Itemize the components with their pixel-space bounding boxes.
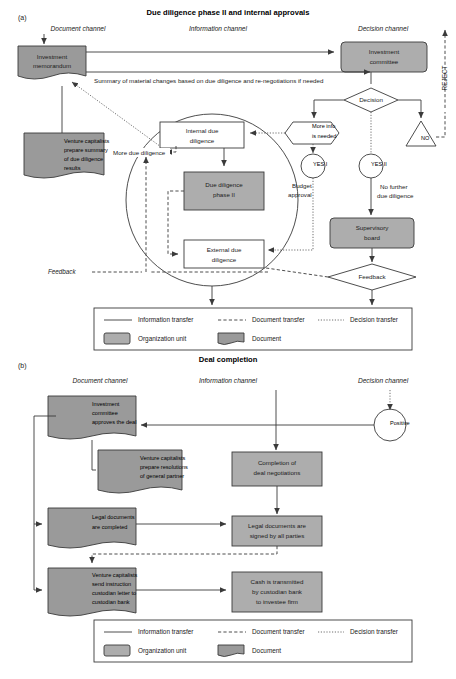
node-more-info-line1: More info <box>312 123 335 129</box>
edge-budget-approval <box>268 178 313 250</box>
flowchart-svg: (a) Due diligence phase II and internal … <box>0 0 456 679</box>
edge-label-no-further-line1: No further <box>380 183 408 190</box>
node-supervisory-board-line2: board <box>364 234 380 241</box>
legend-b-information-label: Information transfer <box>138 628 194 635</box>
panel-b-letter: (b) <box>18 362 27 370</box>
edge-label-budget-approval-line1: Budget <box>292 182 312 189</box>
node-ic-approves-line1: Investment <box>92 401 120 407</box>
node-vc-prepare-summary-line2: prepare summary <box>64 147 108 153</box>
node-no-label: NO <box>421 135 430 141</box>
panel-b-title: Deal completion <box>199 355 258 364</box>
node-ic-approves-deal: Investment committee approves the deal <box>48 396 136 439</box>
node-cash-line3: to investee firm <box>256 598 298 605</box>
legend-b-document-swatch-label: Document <box>252 647 281 654</box>
node-yes-ii-label: YES II <box>371 161 387 167</box>
node-internal-due-diligence: Internal due diligence <box>160 122 244 148</box>
node-yes-ii: YES II <box>359 154 387 178</box>
node-vc-resolutions-line1: Venture capitalists <box>140 455 186 461</box>
node-vc-send-instruction: Venture capitalists send instruction cus… <box>48 568 138 616</box>
edge-decision-to-no <box>398 100 421 118</box>
node-legal-completed-line2: are completed <box>92 524 127 530</box>
panel-b-decision-channel-label: Decision channel <box>358 377 409 384</box>
node-supervisory-board: Supervisory board <box>330 218 414 248</box>
node-cash-line2: by custodian bank <box>252 588 303 595</box>
panel-a-letter: (a) <box>18 14 27 22</box>
edge-ic-to-resolutions <box>92 440 96 470</box>
node-more-info-line2: is needed <box>312 133 336 139</box>
legend-a: Information transfer Document transfer D… <box>94 308 412 350</box>
node-internal-due-diligence-line1: Internal due <box>186 127 219 134</box>
node-due-diligence-phase-ii: Due diligence phase II <box>184 172 264 210</box>
node-yes-i: YES I <box>301 154 328 178</box>
node-decision-label: Decision <box>359 96 383 103</box>
node-legal-docs-signed: Legal documents are signed by all partie… <box>232 516 322 546</box>
node-investment-committee-line2: committee <box>370 58 399 65</box>
legend-b-org-label: Organization unit <box>138 647 187 655</box>
node-feedback-right: Feedback <box>328 264 416 290</box>
node-vc-prepare-summary-line1: Venture capitalists <box>64 138 110 144</box>
legend-a-decision-label: Decision transfer <box>350 316 399 323</box>
reject-label: REJECT <box>441 65 448 90</box>
node-supervisory-board-line1: Supervisory <box>356 224 390 231</box>
edge-no-to-reject <box>436 112 445 137</box>
node-investment-committee: Investment committee <box>341 42 427 72</box>
node-vc-send-line2: send instruction <box>92 581 131 587</box>
edge-feedback-right-to-external <box>266 268 328 277</box>
node-investment-memorandum-line1: Investment <box>37 53 68 60</box>
node-investment-committee-line1: Investment <box>369 48 400 55</box>
node-legal-completed-line1: Legal documents <box>92 514 135 520</box>
panel-a-decision-channel-label: Decision channel <box>358 25 409 32</box>
node-external-due-diligence-line2: diligence <box>212 256 237 263</box>
node-vc-prepare-summary: Venture capitalists prepare summary of d… <box>24 133 110 178</box>
node-legal-signed-line1: Legal documents are <box>248 522 306 529</box>
node-completion-line2: deal negotiations <box>254 469 301 476</box>
node-vc-send-line4: custodian bank <box>92 599 130 605</box>
edge-label-feedback-left: Feedback <box>48 268 77 275</box>
node-feedback-right-label: Feedback <box>358 273 386 280</box>
panel-a-information-channel-label: Information channel <box>189 25 247 32</box>
edge-label-no-further-line2: due diligence <box>377 192 414 199</box>
node-ic-approves-line3: approves the deal <box>92 419 136 425</box>
node-vc-send-line1: Venture capitalists <box>92 572 138 578</box>
node-no: NO <box>406 121 436 146</box>
legend-b-decision-label: Decision transfer <box>350 628 399 635</box>
node-cash-transmitted: Cash is transmitted by custodian bank to… <box>232 572 322 612</box>
node-vc-prepare-summary-line3: of due diligence <box>64 156 103 162</box>
panel-b-document-channel-label: Document channel <box>73 377 129 384</box>
node-positive-label: Positive <box>390 420 410 426</box>
edge-legal-signed-to-vc-send <box>92 546 277 563</box>
node-positive: Positive <box>374 409 410 441</box>
node-legal-docs-completed: Legal documents are completed <box>48 508 136 548</box>
node-due-diligence-phase-ii-line2: phase II <box>213 191 235 198</box>
node-external-due-diligence-line1: External due <box>207 246 242 253</box>
node-decision: Decision <box>344 88 398 112</box>
edge-phase-ii-to-external <box>168 191 184 254</box>
edge-label-more-due-diligence: More due diligence <box>113 149 166 156</box>
node-vc-resolutions-line2: prepare resolutions <box>140 464 188 470</box>
panel-a-document-channel-label: Document channel <box>51 25 107 32</box>
node-investment-memorandum: Investment memorandum <box>18 46 86 79</box>
node-completion-line1: Completion of <box>258 459 296 466</box>
node-vc-prepare-summary-line4: results <box>64 165 81 171</box>
node-more-info-is-needed: More info is needed <box>285 122 339 144</box>
diagram-page: (a) Due diligence phase II and internal … <box>0 0 456 679</box>
legend-b: Information transfer Document transfer D… <box>94 620 412 662</box>
node-completion-of-negotiations: Completion of deal negotiations <box>232 452 322 486</box>
legend-a-org-swatch <box>104 333 130 344</box>
edge-label-budget-approval-line2: approval <box>288 191 312 198</box>
edge-label-summary-of-changes: Summary of material changes based on due… <box>94 77 324 84</box>
legend-b-org-swatch <box>104 645 130 656</box>
node-yes-i-label: YES I <box>313 161 328 167</box>
legend-a-org-label: Organization unit <box>138 335 187 343</box>
node-due-diligence-phase-ii-line1: Due diligence <box>205 181 243 188</box>
node-ic-approves-line2: committee <box>92 410 118 416</box>
edge-decision-to-more-info <box>314 100 344 118</box>
panel-b-information-channel-label: Information channel <box>199 377 257 384</box>
node-external-due-diligence: External due diligence <box>184 240 264 268</box>
legend-a-document-swatch-label: Document <box>252 335 281 342</box>
node-cash-line1: Cash is transmitted <box>251 578 305 585</box>
legend-b-document-label: Document transfer <box>252 628 305 635</box>
node-vc-send-line3: custodian letter to <box>92 590 136 596</box>
node-vc-resolutions-line3: of general partner <box>140 473 184 479</box>
node-internal-due-diligence-line2: diligence <box>190 137 215 144</box>
